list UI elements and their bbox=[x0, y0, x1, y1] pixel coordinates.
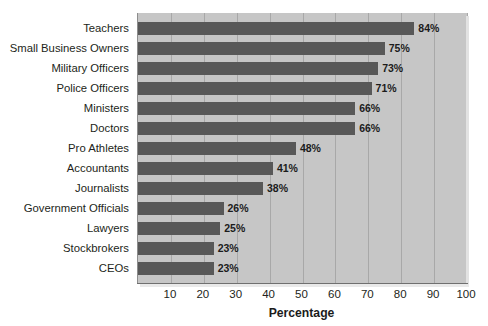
bar bbox=[138, 102, 355, 115]
x-tick-label: 60 bbox=[319, 288, 349, 300]
bar-value-label: 73% bbox=[382, 62, 403, 75]
x-tick-label: 70 bbox=[352, 288, 382, 300]
bar-value-label: 66% bbox=[359, 122, 380, 135]
category-label: Military Officers bbox=[0, 62, 129, 75]
plot-bottom-shadow bbox=[140, 284, 469, 287]
bar-value-label: 23% bbox=[218, 262, 239, 275]
bar-value-label: 71% bbox=[376, 82, 397, 95]
gridline bbox=[434, 13, 435, 283]
plot-right-shadow bbox=[466, 16, 469, 286]
bar bbox=[138, 62, 378, 75]
category-label: Government Officials bbox=[0, 202, 129, 215]
bar-value-label: 26% bbox=[228, 202, 249, 215]
bar bbox=[138, 162, 273, 175]
plot-area: 84%75%73%71%66%66%48%41%38%26%25%23%23% bbox=[137, 13, 467, 283]
bar bbox=[138, 242, 214, 255]
x-tick-label: 100 bbox=[451, 288, 481, 300]
x-axis-title: Percentage bbox=[137, 306, 466, 320]
bar-value-label: 25% bbox=[224, 222, 245, 235]
bar bbox=[138, 82, 372, 95]
bar bbox=[138, 142, 296, 155]
bar-value-label: 48% bbox=[300, 142, 321, 155]
bar-value-label: 23% bbox=[218, 242, 239, 255]
category-label: Doctors bbox=[0, 122, 129, 135]
bar-value-label: 75% bbox=[389, 42, 410, 55]
category-label: Police Officers bbox=[0, 82, 129, 95]
x-axis-line bbox=[137, 283, 468, 284]
category-label: Accountants bbox=[0, 162, 129, 175]
bar bbox=[138, 22, 414, 35]
x-tick-label: 50 bbox=[287, 288, 317, 300]
bar-value-label: 41% bbox=[277, 162, 298, 175]
category-axis-labels: TeachersSmall Business OwnersMilitary Of… bbox=[0, 13, 133, 283]
category-label: CEOs bbox=[0, 262, 129, 275]
category-label: Lawyers bbox=[0, 222, 129, 235]
x-tick-label: 90 bbox=[418, 288, 448, 300]
bar-value-label: 84% bbox=[418, 22, 439, 35]
category-label: Small Business Owners bbox=[0, 42, 129, 55]
bar bbox=[138, 222, 220, 235]
category-label: Stockbrokers bbox=[0, 242, 129, 255]
category-label: Teachers bbox=[0, 22, 129, 35]
bar-value-label: 38% bbox=[267, 182, 288, 195]
category-label: Ministers bbox=[0, 102, 129, 115]
bar bbox=[138, 122, 355, 135]
bar bbox=[138, 202, 224, 215]
x-tick-label: 40 bbox=[254, 288, 284, 300]
category-label: Pro Athletes bbox=[0, 142, 129, 155]
bar bbox=[138, 182, 263, 195]
x-tick-label: 80 bbox=[385, 288, 415, 300]
horizontal-bar-chart: TeachersSmall Business OwnersMilitary Of… bbox=[0, 0, 488, 326]
bar bbox=[138, 262, 214, 275]
category-label: Journalists bbox=[0, 182, 129, 195]
x-tick-label: 20 bbox=[188, 288, 218, 300]
bar-value-label: 66% bbox=[359, 102, 380, 115]
x-tick-label: 10 bbox=[155, 288, 185, 300]
x-tick-label: 30 bbox=[221, 288, 251, 300]
bar bbox=[138, 42, 385, 55]
